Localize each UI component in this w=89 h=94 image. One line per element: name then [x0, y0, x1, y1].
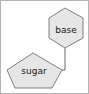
node-base-label: base	[55, 25, 77, 35]
diagram-canvas: sugar base	[0, 0, 89, 94]
node-sugar-label: sugar	[21, 66, 47, 76]
diagram-svg: sugar base	[0, 0, 89, 94]
edge-base-to-sugar	[62, 48, 65, 70]
